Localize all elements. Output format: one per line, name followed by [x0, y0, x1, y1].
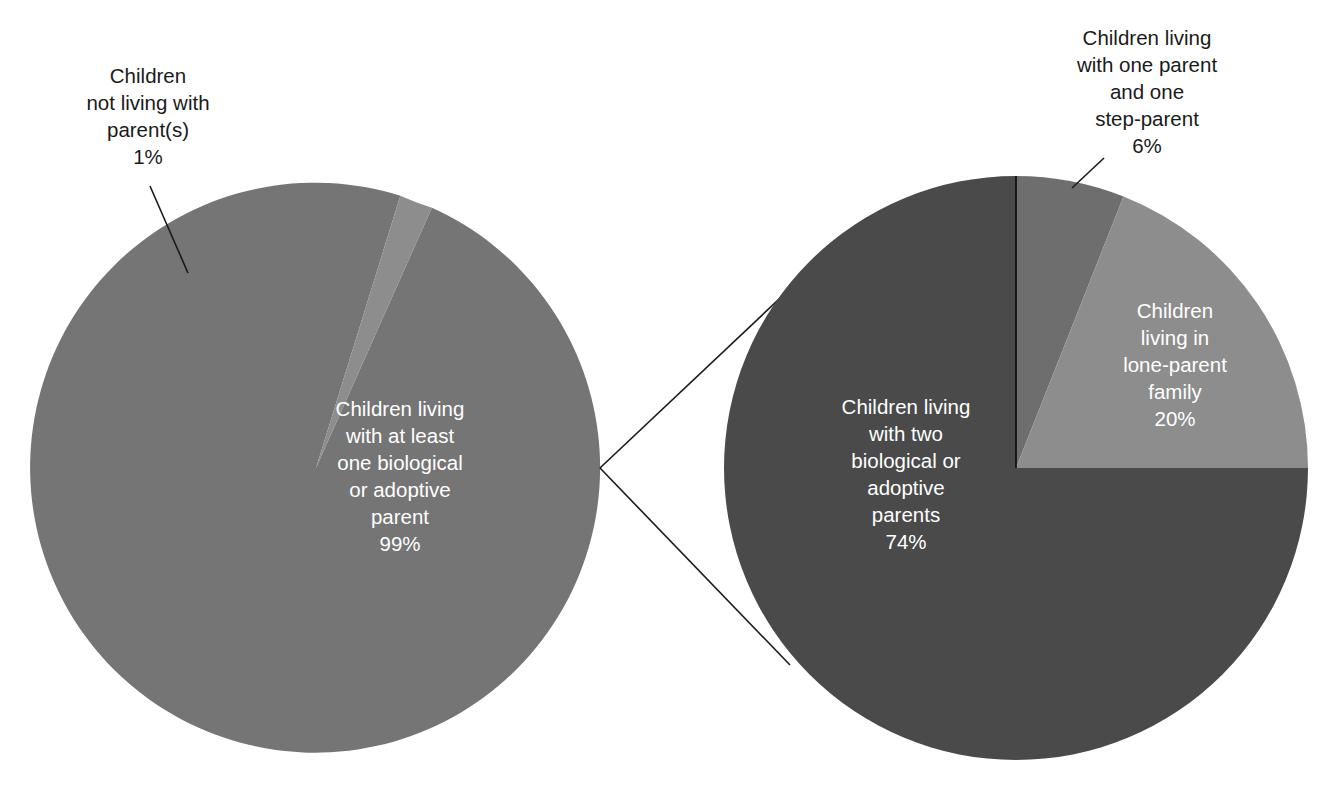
- left-main-line3: one biological: [337, 451, 462, 474]
- left-callout-line3: parent(s): [107, 118, 189, 141]
- left-callout-percent: 1%: [133, 145, 163, 168]
- right-lone-line2: living in: [1141, 326, 1209, 349]
- right-lone-percent: 20%: [1154, 407, 1195, 430]
- left-main-line1: Children living: [336, 397, 465, 420]
- left-callout-line1: Children: [110, 64, 186, 87]
- right-callout-line3: and one: [1110, 80, 1184, 103]
- pie-chart-figure: Children not living with parent(s) 1% Ch…: [0, 0, 1324, 800]
- right-main-line1: Children living: [842, 395, 971, 418]
- right-pie-callout-label: Children living with one parent and one …: [1076, 26, 1217, 157]
- right-callout-line4: step-parent: [1095, 107, 1199, 130]
- left-pie-group: Children not living with parent(s) 1% Ch…: [30, 64, 600, 753]
- left-callout-line2: not living with: [86, 91, 209, 114]
- right-main-percent: 74%: [885, 530, 926, 553]
- right-main-line5: parents: [872, 503, 940, 526]
- right-callout-line2: with one parent: [1076, 53, 1217, 76]
- left-main-line4: or adoptive: [349, 478, 450, 501]
- chart-canvas: Children not living with parent(s) 1% Ch…: [0, 0, 1324, 800]
- right-main-line3: biological or: [851, 449, 961, 472]
- left-main-line2: with at least: [345, 424, 455, 447]
- right-callout-leader-line: [1072, 158, 1104, 188]
- right-lone-line1: Children: [1137, 299, 1213, 322]
- right-callout-line1: Children living: [1083, 26, 1212, 49]
- left-pie-slice-with-parent[interactable]: [30, 183, 600, 753]
- left-pie-callout-label: Children not living with parent(s) 1%: [86, 64, 209, 168]
- left-main-percent: 99%: [379, 532, 420, 555]
- left-main-line5: parent: [371, 505, 429, 528]
- right-callout-percent: 6%: [1132, 134, 1162, 157]
- right-main-line4: adoptive: [867, 476, 945, 499]
- right-main-line2: with two: [868, 422, 943, 445]
- right-lone-line4: family: [1148, 380, 1202, 403]
- right-pie-group: Children living with one parent and one …: [724, 26, 1308, 760]
- right-lone-line3: lone-parent: [1123, 353, 1227, 376]
